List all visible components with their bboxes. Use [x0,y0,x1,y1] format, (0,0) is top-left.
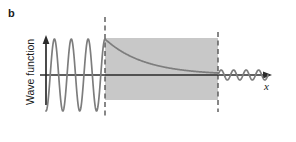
wave-function-diagram: b Wave function x [0,0,296,142]
figure-panel-b: b Wave function x [0,0,296,142]
x-axis-label: x [263,80,269,92]
barrier-region [105,38,218,100]
panel-label: b [8,7,15,19]
y-axis-label: Wave function [24,39,36,105]
